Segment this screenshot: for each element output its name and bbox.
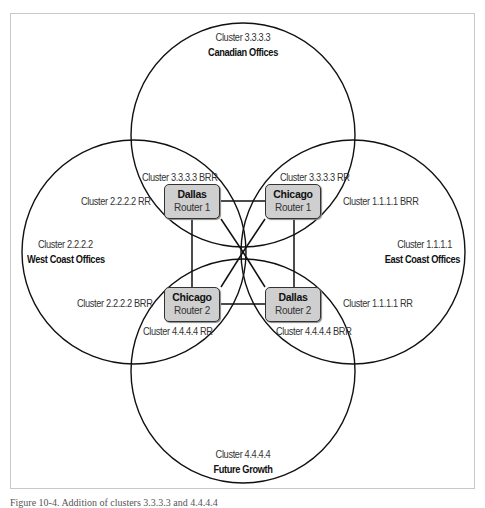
label-c1-rr: Cluster 1.1.1.1 RR — [343, 297, 413, 309]
router-role: Router 1 — [266, 201, 320, 214]
label-c2-rr: Cluster 2.2.2.2 RR — [81, 195, 151, 207]
cluster-bottom-name: Future Growth — [199, 463, 287, 475]
cluster-right-name: East Coast Offices — [372, 253, 460, 265]
router-name: Chicago — [266, 188, 320, 201]
cluster-circle-right — [241, 140, 465, 364]
router-dallas-1: Dallas Router 1 — [164, 184, 220, 219]
router-chicago-1: Chicago Router 1 — [265, 184, 321, 219]
cluster-top-id: Cluster 3.3.3.3 — [199, 31, 287, 43]
router-dallas-2: Dallas Router 2 — [265, 287, 321, 322]
router-name: Dallas — [165, 188, 219, 201]
label-c3-rr: Cluster 3.3.3.3 RR — [280, 171, 350, 183]
cluster-right-id: Cluster 1.1.1.1 — [364, 238, 452, 250]
figure-caption: Figure 10-4. Addition of clusters 3.3.3.… — [10, 497, 218, 508]
router-role: Router 2 — [266, 304, 320, 317]
cluster-top-name: Canadian Offices — [199, 46, 287, 58]
label-c2-brr: Cluster 2.2.2.2 BRR — [77, 297, 152, 309]
label-c4-brr: Cluster 4.4.4.4 BRR — [276, 325, 351, 337]
link-center-chicago2 — [221, 252, 243, 287]
cluster-left-id: Cluster 2.2.2.2 — [38, 238, 93, 250]
router-chicago-2: Chicago Router 2 — [164, 287, 220, 322]
label-c4-rr: Cluster 4.4.4.4 RR — [143, 325, 213, 337]
label-c1-brr: Cluster 1.1.1.1 BRR — [343, 195, 418, 207]
router-role: Router 1 — [165, 201, 219, 214]
cluster-left-name: West Coast Offices — [27, 253, 105, 265]
label-c3-brr: Cluster 3.3.3.3 BRR — [142, 171, 217, 183]
router-name: Chicago — [165, 291, 219, 304]
router-name: Dallas — [266, 291, 320, 304]
link-center-dallas2 — [243, 252, 265, 287]
router-role: Router 2 — [165, 304, 219, 317]
cluster-bottom-id: Cluster 4.4.4.4 — [199, 448, 287, 460]
